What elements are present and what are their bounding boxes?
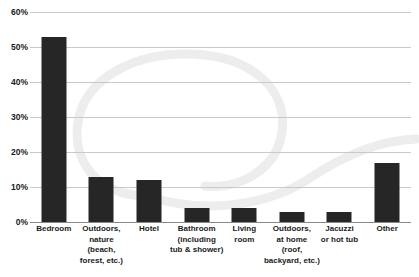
x-axis-line [30,222,411,223]
x-label-line: (roof, [263,245,321,256]
bar-slot [268,12,316,222]
x-label-line: (beach, [75,245,129,256]
x-label-line: tub & shower) [168,245,226,256]
bar-slot [173,12,221,222]
x-label-line: or hot tub [314,235,366,246]
x-label-living-room: Living room [221,224,269,245]
x-label-hotel: Hotel [125,224,173,235]
x-label-line: Jacuzzi [314,224,366,235]
x-label-line: Outdoors, [75,224,129,235]
bar-outdoors-at-home [279,212,304,223]
y-tick-label: 60% [2,8,28,17]
bar-series [30,12,411,222]
x-label-other: Other [363,224,411,235]
x-label-jacuzzi: Jacuzzi or hot tub [314,224,366,245]
x-label-bathroom: Bathroom (including tub & shower) [168,224,226,256]
x-label-bedroom: Bedroom [30,224,78,235]
y-tick-label: 20% [2,148,28,157]
y-axis: 60% 50% 40% 30% 20% 10% 0% [0,12,28,222]
x-label-line: room [221,235,269,246]
y-tick-label: 40% [2,78,28,87]
x-label-line: Other [363,224,411,235]
x-label-line: Outdoors, [263,224,321,235]
y-tick-label: 50% [2,43,28,52]
bar-slot [125,12,173,222]
x-axis-labels: Bedroom Outdoors, nature (beach, forest,… [30,224,411,277]
y-tick-label: 10% [2,183,28,192]
bar-other [375,163,400,223]
x-label-line: Bathroom [168,224,226,235]
x-label-line: backyard, etc.) [263,256,321,267]
bar-jacuzzi [327,212,352,223]
bar-bedroom [41,37,66,223]
bar-bathroom [184,208,209,222]
x-label-line: at home [263,235,321,246]
bar-chart: 60% 50% 40% 30% 20% 10% 0% [0,0,419,277]
x-label-line: Living [221,224,269,235]
bar-outdoors-nature [89,177,114,223]
bar-slot [30,12,78,222]
bar-slot [363,12,411,222]
x-label-line: nature [75,235,129,246]
y-tick-label: 30% [2,113,28,122]
x-label-outdoors-nature: Outdoors, nature (beach, forest, etc.) [75,224,129,266]
bar-slot [78,12,126,222]
bar-living-room [232,208,257,222]
bar-slot [221,12,269,222]
bar-hotel [136,180,161,222]
x-label-outdoors-at-home: Outdoors, at home (roof, backyard, etc.) [263,224,321,266]
x-label-line: forest, etc.) [75,256,129,267]
x-label-line: Bedroom [30,224,78,235]
bar-slot [316,12,364,222]
y-tick-label: 0% [2,218,28,227]
x-label-line: (including [168,235,226,246]
x-label-line: Hotel [125,224,173,235]
